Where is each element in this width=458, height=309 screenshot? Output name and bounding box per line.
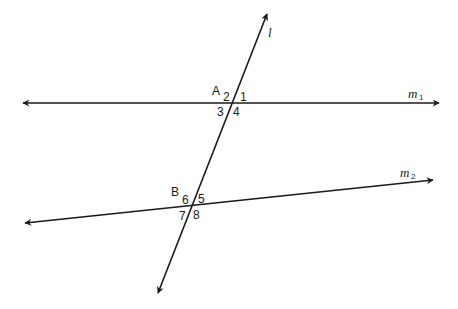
label-point-b: B [171,185,179,199]
label-point-a: A [212,84,220,98]
label-m1: m [408,86,417,101]
angle-4: 4 [233,105,240,119]
label-m1-subscript: 1 [419,93,424,102]
label-m2-subscript: 2 [411,172,416,181]
angle-2: 2 [223,90,230,104]
angle-8: 8 [193,208,200,222]
line-m2 [25,180,433,223]
angle-1: 1 [240,90,247,104]
angle-7: 7 [179,209,186,223]
angle-3: 3 [217,105,224,119]
label-l: l [268,25,272,40]
angle-6: 6 [182,193,189,207]
label-m2: m [400,165,409,180]
angle-5: 5 [198,192,205,206]
line-l-transversal [158,14,267,293]
diagram-canvas: l m 1 m 2 A B 2 1 3 4 6 5 7 8 [0,0,458,309]
